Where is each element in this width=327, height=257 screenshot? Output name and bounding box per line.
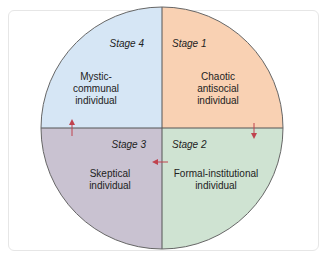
stage-1-label-1: Chaotic — [201, 71, 235, 82]
stage-3-title: Stage 3 — [112, 139, 147, 150]
stage-2-title: Stage 2 — [172, 139, 207, 150]
stages-circle-diagram: Stage 4 Mystic- communal individual Stag… — [0, 0, 327, 257]
quadrant-stage-1 — [162, 7, 283, 128]
stage-4-label-1: Mystic- — [80, 71, 112, 82]
stage-3-label-2: individual — [89, 180, 131, 191]
stage-2-label-1: Formal-institutional — [174, 168, 258, 179]
stage-4-label-2: communal — [73, 83, 119, 94]
stage-4-title: Stage 4 — [110, 38, 145, 49]
stage-1-label-3: individual — [197, 95, 239, 106]
stage-2-label-2: individual — [195, 180, 237, 191]
stage-4-label-3: individual — [75, 95, 117, 106]
quadrant-stage-4 — [41, 7, 162, 128]
stage-1-label-2: antisocial — [197, 83, 239, 94]
stage-1-title: Stage 1 — [172, 38, 206, 49]
stage-3-label-1: Skeptical — [90, 168, 131, 179]
